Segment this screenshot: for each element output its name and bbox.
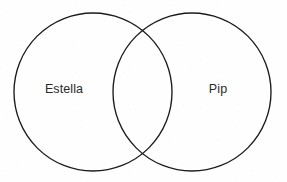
venn-diagram: Estella Pip bbox=[0, 0, 287, 182]
venn-circle-right[interactable] bbox=[113, 13, 271, 171]
venn-label-right: Pip bbox=[209, 82, 227, 96]
venn-diagram-svg: Estella Pip bbox=[0, 0, 287, 182]
venn-circle-left[interactable] bbox=[14, 13, 172, 171]
venn-label-left: Estella bbox=[45, 82, 83, 96]
